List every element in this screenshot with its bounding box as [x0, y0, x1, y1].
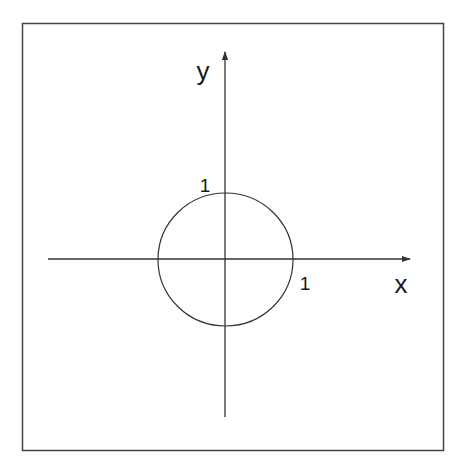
x-axis-label: x — [395, 269, 408, 299]
diagram-frame — [23, 24, 444, 451]
x-tick-label-one: 1 — [300, 273, 311, 294]
y-axis-label: y — [197, 56, 210, 86]
y-tick-label-one: 1 — [200, 175, 211, 196]
unit-circle-diagram: y x 1 1 — [0, 0, 464, 475]
